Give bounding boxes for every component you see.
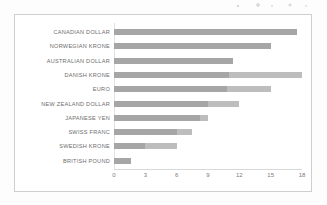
bar-category-label: NORWEGIAN KRONE — [16, 40, 110, 53]
bar-segment-inner — [114, 29, 297, 35]
bar-group — [114, 112, 302, 125]
bar-row: NEW ZEALAND DOLLAR — [15, 98, 313, 111]
bar-group — [114, 69, 302, 82]
bar-category-label: SWISS FRANC — [16, 126, 110, 139]
bar-category-label: NEW ZEALAND DOLLAR — [16, 98, 110, 111]
chart-screenshot: CANADIAN DOLLARNORWEGIAN KRONEAUSTRALIAN… — [0, 0, 327, 205]
bar-row: AUSTRALIAN DOLLAR — [15, 55, 313, 68]
bar-group — [114, 83, 302, 96]
x-axis-tick-label: 6 — [175, 172, 178, 178]
bar-segment-inner — [114, 115, 200, 121]
bar-group — [114, 40, 302, 53]
x-axis-tick-label: 18 — [299, 172, 306, 178]
bar-segment-inner — [114, 43, 271, 49]
bar-row: BRITISH POUND — [15, 155, 313, 168]
bar-row: DANISH KRONE — [15, 69, 313, 82]
bar-row: JAPANESE YEN — [15, 112, 313, 125]
chart-frame: CANADIAN DOLLARNORWEGIAN KRONEAUSTRALIAN… — [14, 14, 312, 192]
bar-segment-inner — [114, 86, 227, 92]
plot-area: CANADIAN DOLLARNORWEGIAN KRONEAUSTRALIAN… — [15, 15, 313, 193]
bar-group — [114, 140, 302, 153]
bar-category-label: EURO — [16, 83, 110, 96]
bar-segment-inner — [114, 158, 131, 164]
bar-row: EURO — [15, 83, 313, 96]
bar-category-label: JAPANESE YEN — [16, 112, 110, 125]
bar-group — [114, 26, 302, 39]
bar-segment-inner — [114, 58, 233, 64]
bar-segment-inner — [114, 129, 177, 135]
scan-artifact — [232, 2, 324, 10]
bar-row: CANADIAN DOLLAR — [15, 26, 313, 39]
x-axis-tick-label: 0 — [112, 172, 115, 178]
bar-category-label: DANISH KRONE — [16, 69, 110, 82]
bar-segment-inner — [114, 72, 229, 78]
x-axis-tick-label: 15 — [267, 172, 274, 178]
bar-group — [114, 55, 302, 68]
category-axis-line — [114, 169, 302, 170]
bar-category-label: SWEDISH KRONE — [16, 140, 110, 153]
bar-group — [114, 126, 302, 139]
bar-segment-inner — [114, 143, 145, 149]
bar-row: SWEDISH KRONE — [15, 140, 313, 153]
bar-row: SWISS FRANC — [15, 126, 313, 139]
bar-row: NORWEGIAN KRONE — [15, 40, 313, 53]
bar-category-label: BRITISH POUND — [16, 155, 110, 168]
x-axis-tick-label: 3 — [144, 172, 147, 178]
x-axis-tick-label: 12 — [236, 172, 243, 178]
bar-group — [114, 155, 302, 168]
bar-group — [114, 98, 302, 111]
x-axis-tick-label: 9 — [206, 172, 209, 178]
bar-segment-inner — [114, 101, 208, 107]
bar-category-label: CANADIAN DOLLAR — [16, 26, 110, 39]
bar-category-label: AUSTRALIAN DOLLAR — [16, 55, 110, 68]
